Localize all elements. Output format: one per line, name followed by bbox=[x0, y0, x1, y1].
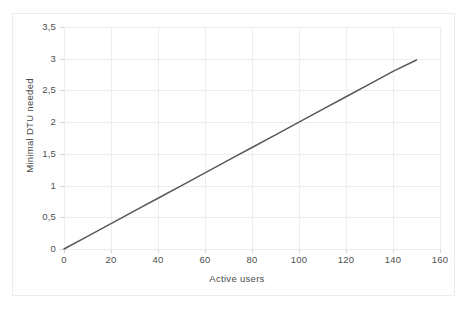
y-tick-label: 0,5 bbox=[0, 212, 56, 222]
x-axis-title: Active users bbox=[0, 273, 474, 284]
y-tick-label: 2 bbox=[0, 117, 56, 127]
gridline-vertical bbox=[440, 27, 441, 249]
y-tick-label: 3,5 bbox=[0, 22, 56, 32]
y-tick-label: 2,5 bbox=[0, 85, 56, 95]
series-line-chart bbox=[64, 27, 440, 249]
x-tick-label: 20 bbox=[91, 254, 131, 265]
x-tick-label: 0 bbox=[44, 254, 84, 265]
x-tick-label: 80 bbox=[232, 254, 272, 265]
x-tick-label: 40 bbox=[138, 254, 178, 265]
x-tick-label: 120 bbox=[326, 254, 366, 265]
x-tick-label: 160 bbox=[420, 254, 460, 265]
y-tick-label: 1,5 bbox=[0, 149, 56, 159]
x-tick-label: 140 bbox=[373, 254, 413, 265]
chart-root: Minimal DTU needed 00,511,522,533,5 0204… bbox=[0, 0, 474, 313]
plot-area bbox=[64, 27, 440, 249]
x-tick-label: 100 bbox=[279, 254, 319, 265]
series-line bbox=[64, 60, 417, 249]
gridline-horizontal bbox=[64, 249, 440, 250]
y-tick-label: 0 bbox=[0, 244, 56, 254]
y-tick-label: 1 bbox=[0, 181, 56, 191]
x-tick-label: 60 bbox=[185, 254, 225, 265]
y-tick-label: 3 bbox=[0, 54, 56, 64]
